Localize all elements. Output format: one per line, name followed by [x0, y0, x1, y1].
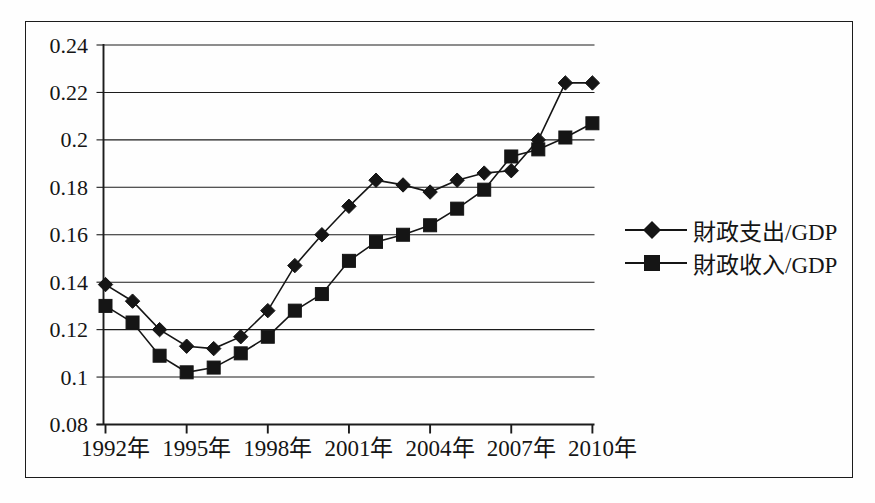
expenditure-gdp-point-2003	[396, 178, 410, 192]
expenditure-gdp-line	[106, 83, 593, 349]
y-axis-label: 0.2	[61, 127, 89, 152]
y-axis-label: 0.1	[61, 365, 89, 390]
y-axis-label: 0.16	[50, 222, 89, 247]
revenue-gdp-point-2005	[451, 202, 464, 215]
legend-item-revenue: 財政收入/GDP	[624, 246, 837, 279]
revenue-gdp-point-1994	[153, 349, 166, 362]
expenditure-gdp-point-1995	[179, 339, 193, 353]
revenue-gdp-point-1993	[126, 316, 139, 329]
revenue-gdp-point-1999	[288, 304, 301, 317]
expenditure-gdp-point-2009	[558, 76, 572, 90]
expenditure-gdp-point-1996	[207, 341, 221, 355]
square-marker-icon	[624, 252, 688, 274]
figure-caption: 圖 財政收支占GDP比例變化	[0, 496, 875, 503]
expenditure-gdp-point-2005	[450, 173, 464, 187]
legend-label-revenue: 財政收入/GDP	[693, 246, 837, 280]
x-axis-label: 1992年	[81, 436, 150, 461]
revenue-gdp-point-2006	[478, 183, 491, 196]
chart-legend: 財政支出/GDP 財政收入/GDP	[624, 213, 837, 279]
y-axis-label: 0.08	[50, 412, 89, 437]
revenue-gdp-point-1992	[99, 299, 112, 312]
revenue-gdp-point-2008	[532, 143, 545, 156]
x-axis-label: 2004年	[406, 436, 475, 461]
revenue-gdp-point-1995	[180, 366, 193, 379]
y-axis-label: 0.18	[50, 175, 89, 200]
expenditure-gdp-point-2010	[585, 76, 599, 90]
x-axis-label: 1995年	[162, 436, 231, 461]
y-axis-label: 0.12	[50, 317, 89, 342]
y-axis-label: 0.14	[50, 270, 89, 295]
x-axis-label: 2010年	[568, 436, 637, 461]
revenue-gdp-point-1996	[207, 361, 220, 374]
revenue-gdp-point-2002	[370, 235, 383, 248]
expenditure-gdp-point-2006	[477, 166, 491, 180]
y-axis-label: 0.24	[50, 33, 89, 58]
revenue-gdp-point-1997	[234, 347, 247, 360]
x-axis-label: 1998年	[243, 436, 312, 461]
revenue-gdp-point-1998	[261, 330, 274, 343]
y-axis-label: 0.22	[50, 80, 89, 105]
legend-item-expenditure: 財政支出/GDP	[624, 213, 837, 246]
revenue-gdp-point-2009	[559, 131, 572, 144]
revenue-gdp-point-2007	[505, 150, 518, 163]
revenue-gdp-point-2001	[342, 254, 355, 267]
figure-page: 0.080.10.120.140.160.180.20.220.241992年1…	[0, 0, 875, 503]
legend-label-expenditure: 財政支出/GDP	[693, 213, 837, 247]
revenue-gdp-point-2000	[315, 288, 328, 301]
revenue-gdp-point-2004	[424, 219, 437, 232]
x-axis-label: 2001年	[324, 436, 393, 461]
x-axis-label: 2007年	[487, 436, 556, 461]
revenue-gdp-point-2010	[586, 117, 599, 130]
expenditure-gdp-point-1992	[98, 277, 112, 291]
revenue-gdp-point-2003	[397, 228, 410, 241]
diamond-marker-icon	[624, 219, 688, 241]
